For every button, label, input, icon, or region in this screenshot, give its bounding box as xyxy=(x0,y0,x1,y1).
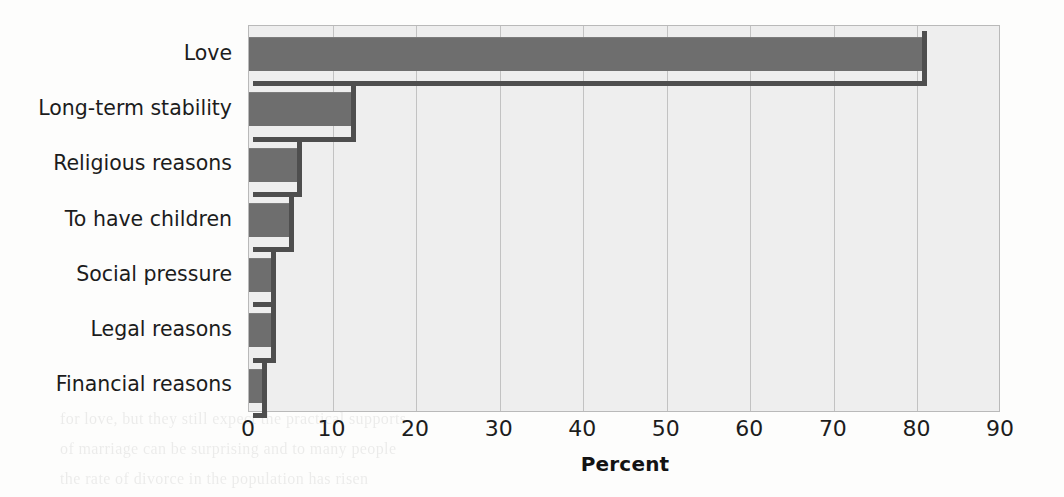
bar-shadow-right xyxy=(297,142,302,197)
x-tick-label-10: 10 xyxy=(318,418,346,440)
bars-layer xyxy=(249,26,999,411)
x-axis-tick-labels: 0102030405060708090 xyxy=(0,418,1064,452)
bar-religious-reasons[interactable] xyxy=(249,148,297,182)
bar-shadow-right xyxy=(351,86,356,141)
bar-row[interactable] xyxy=(249,192,1001,247)
bar-shadow-right xyxy=(922,31,927,86)
bar-row[interactable] xyxy=(249,358,1001,413)
category-label-long-term-stability: Long-term stability xyxy=(38,98,232,119)
x-tick-label-40: 40 xyxy=(568,418,596,440)
bar-row[interactable] xyxy=(249,26,1001,81)
x-tick-label-60: 60 xyxy=(735,418,763,440)
x-tick-label-70: 70 xyxy=(819,418,847,440)
x-axis-title-text: Percent xyxy=(581,452,670,476)
category-label-to-have-children: To have children xyxy=(65,209,232,230)
bar-row[interactable] xyxy=(249,247,1001,302)
category-label-legal-reasons: Legal reasons xyxy=(90,319,232,340)
bar-shadow-right xyxy=(271,307,276,362)
bar-financial-reasons[interactable] xyxy=(249,369,262,403)
bar-row[interactable] xyxy=(249,302,1001,357)
bar-social-pressure[interactable] xyxy=(249,258,271,292)
bar-shadow-right xyxy=(271,252,276,307)
x-tick-label-20: 20 xyxy=(401,418,429,440)
bar-legal-reasons[interactable] xyxy=(249,313,271,347)
x-tick-label-90: 90 xyxy=(986,418,1014,440)
plot-area xyxy=(248,25,1000,412)
x-axis-title: Percent xyxy=(0,452,1064,476)
bar-shadow-right xyxy=(262,363,267,418)
bar-love[interactable] xyxy=(249,37,922,71)
bar-to-have-children[interactable] xyxy=(249,203,289,237)
bar-row[interactable] xyxy=(249,137,1001,192)
x-tick-label-0: 0 xyxy=(241,418,255,440)
category-label-social-pressure: Social pressure xyxy=(76,264,232,285)
bar-chart-figure: LoveLong-term stabilityReligious reasons… xyxy=(0,0,1064,497)
x-tick-label-50: 50 xyxy=(652,418,680,440)
x-tick-label-30: 30 xyxy=(485,418,513,440)
bar-long-term-stability[interactable] xyxy=(249,92,351,126)
bar-shadow-right xyxy=(289,197,294,252)
bar-row[interactable] xyxy=(249,81,1001,136)
category-label-financial-reasons: Financial reasons xyxy=(56,374,232,395)
category-axis-labels: LoveLong-term stabilityReligious reasons… xyxy=(0,25,240,412)
x-tick-label-80: 80 xyxy=(902,418,930,440)
category-label-religious-reasons: Religious reasons xyxy=(53,153,232,174)
category-label-love: Love xyxy=(184,43,232,64)
